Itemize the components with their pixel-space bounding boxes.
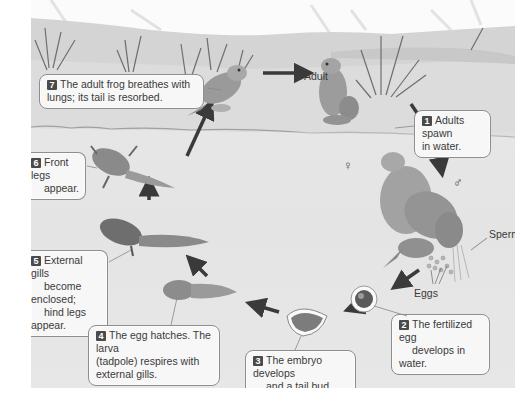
stage-5-badge: 5 (31, 256, 41, 266)
stage-2-badge: 2 (399, 320, 409, 330)
stage-7-text-2: lungs; its tail is resorbed. (47, 91, 163, 103)
adult-label: Adult (304, 70, 328, 82)
mating-frogs-illustration (380, 152, 469, 282)
stage-4-callout: 4The egg hatches. The larva (tadpole) re… (88, 325, 220, 386)
stage-6-callout: 6Front legs appear. (31, 152, 86, 200)
adult-frog-illustration (319, 58, 359, 125)
stage-3-text-1: The embryo develops (253, 354, 322, 379)
sperm-lines (453, 245, 469, 282)
stage-7-callout: 7The adult frog breathes with lungs; its… (39, 74, 204, 109)
stage-4-badge: 4 (96, 331, 106, 341)
stage-3-text-2: and a tail bud forms. (253, 380, 329, 388)
stage-1-callout: 1Adults spawn in water. (414, 110, 491, 158)
stage-6-badge: 6 (31, 158, 41, 168)
fertilized-egg-illustration (351, 286, 377, 312)
pond-scene: Adult Sperm Eggs ♀ ♂ 7The adult frog bre… (31, 0, 515, 388)
stage-5-callout: 5External gills become enclosed; hind le… (31, 250, 108, 337)
stage-4-text-2: (tadpole) respires with (96, 355, 199, 367)
stage-4-text-1: The egg hatches. The larva (96, 329, 211, 354)
stage-7-badge: 7 (47, 80, 57, 90)
stage-4-text-3: external gills. (96, 368, 157, 380)
stage-2-text-2: develops in water. (399, 344, 465, 369)
tadpole-gills-illustration (163, 280, 237, 300)
tadpole-hindlegs-illustration (96, 213, 209, 256)
stage-1-text-2: in water. (422, 140, 461, 152)
stage-3-badge: 3 (253, 356, 263, 366)
male-symbol: ♂ (453, 175, 463, 190)
stage-5-text-2: become enclosed; (31, 280, 81, 305)
embryo-illustration (287, 309, 327, 336)
stage-2-text-1: The fertilized egg (399, 318, 472, 343)
stage-6-text-2: appear. (31, 182, 79, 194)
froglet-illustration (88, 143, 175, 188)
eggs-label: Eggs (414, 287, 438, 299)
female-symbol: ♀ (343, 158, 353, 173)
stage-7-text-1: The adult frog breathes with (60, 78, 190, 90)
stage-2-callout: 2The fertilized egg develops in water. (391, 314, 490, 375)
stage-1-badge: 1 (422, 116, 432, 126)
stage-3-callout: 3The embryo develops and a tail bud form… (245, 350, 356, 388)
stage-5-text-3: hind legs appear. (31, 306, 86, 331)
sperm-label: Sperm (489, 228, 515, 240)
